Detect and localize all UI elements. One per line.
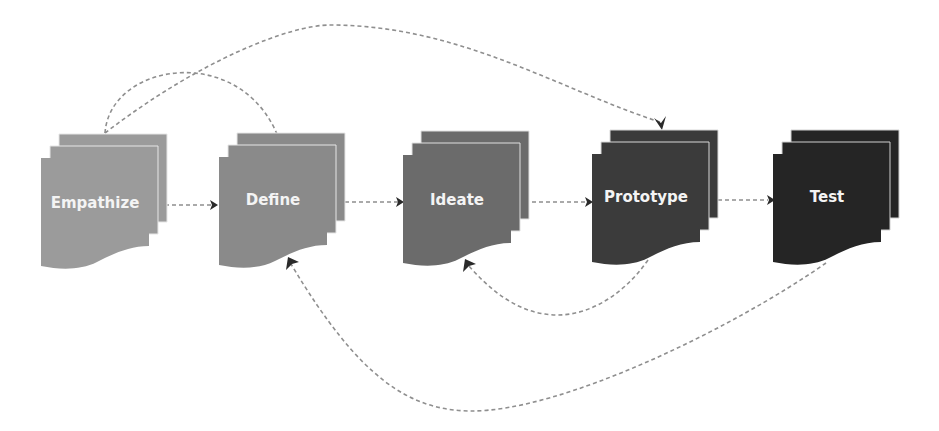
stage-prototype[interactable]: Prototype	[592, 130, 718, 265]
stage-sheet	[592, 154, 700, 265]
stage-define[interactable]: Define	[219, 133, 345, 268]
arrowhead-right-icon	[210, 200, 218, 210]
stage-sheet	[41, 158, 149, 269]
stage-sheet	[773, 154, 881, 265]
connector-arc-empathize-prototype	[105, 25, 660, 133]
design-thinking-diagram: Empathize Define Ideate Prototype Test	[0, 0, 939, 431]
arrowhead-up-icon	[463, 259, 476, 272]
stage-ideate[interactable]: Ideate	[403, 131, 529, 266]
stage-sheet	[403, 155, 511, 266]
stage-empathize[interactable]: Empathize	[41, 134, 167, 269]
connector-loop-prototype-ideate	[468, 260, 648, 315]
connector-loop-test-define	[291, 263, 826, 411]
stage-label: Define	[246, 191, 301, 209]
arrowhead-down-icon	[654, 116, 666, 130]
stage-label: Test	[810, 188, 845, 206]
stage-test[interactable]: Test	[773, 130, 899, 265]
stage-label: Empathize	[51, 194, 140, 212]
arrowhead-up-icon	[286, 257, 299, 270]
stage-label: Ideate	[430, 191, 484, 209]
stage-label: Prototype	[604, 188, 688, 206]
stage-sheet	[219, 157, 327, 268]
arrowhead-right-icon	[585, 197, 593, 207]
